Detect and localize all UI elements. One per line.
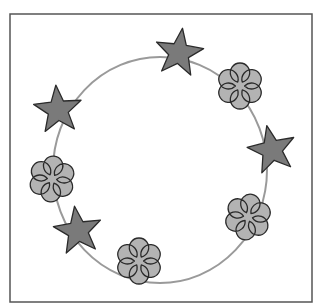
- figure-canvas: [0, 0, 325, 308]
- shapes-group: [29, 25, 300, 284]
- flower-upper-right-flower-icon: [219, 63, 261, 109]
- star-top-star-icon: [153, 25, 206, 76]
- flower-left-flower-icon: [29, 154, 75, 204]
- star-lower-left-star-icon: [51, 203, 104, 254]
- star-right-star-icon: [244, 121, 300, 175]
- star-upper-left-star-icon: [32, 83, 83, 132]
- flower-bottom-flower-icon: [118, 238, 160, 284]
- flower-lower-right-flower-icon: [223, 191, 273, 244]
